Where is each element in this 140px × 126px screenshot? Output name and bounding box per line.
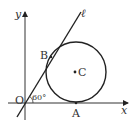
point-c [74,71,77,74]
label-c: C [78,66,86,79]
point-a [75,102,78,105]
origin-label: O [15,94,24,107]
label-a: A [71,107,81,120]
label-b: B [40,49,48,62]
y-axis-label: y [14,8,22,21]
geometry-diagram: y x O ℓ 60° A B C [0,0,140,126]
angle-label: 60° [32,93,46,102]
point-b [50,56,52,58]
x-axis-label: x [121,104,128,117]
line-label: ℓ [81,7,86,20]
